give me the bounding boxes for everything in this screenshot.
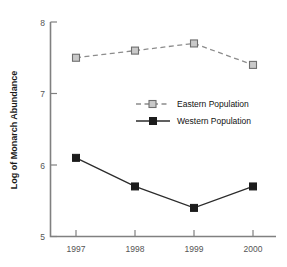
data-point: [250, 183, 257, 190]
legend-label-western: Western Population: [177, 116, 251, 126]
eastern-line: [76, 43, 253, 64]
data-point: [191, 40, 198, 47]
y-axis-ticks: 8 7 6 5: [40, 18, 57, 243]
eastern-markers: [73, 40, 257, 68]
western-line: [76, 158, 253, 208]
y-tick-label-7: 7: [40, 89, 45, 99]
y-tick-label-5: 5: [40, 232, 45, 242]
x-tick-label-1999: 1999: [185, 244, 204, 254]
x-axis-ticks: 1997 1998 1999 2000: [67, 230, 263, 254]
y-tick-label-6: 6: [40, 161, 45, 171]
legend-label-eastern: Eastern Population: [177, 99, 249, 109]
data-point: [132, 183, 139, 190]
data-point: [73, 154, 80, 161]
chart-canvas: Log of Monarch Abundance 8 7 6 5 1997 19…: [0, 0, 287, 267]
y-tick-label-8: 8: [40, 18, 45, 28]
x-tick-label-2000: 2000: [244, 244, 263, 254]
data-point: [191, 204, 198, 211]
axis-lines: [51, 22, 277, 237]
data-point: [132, 47, 139, 54]
x-tick-label-1998: 1998: [126, 244, 145, 254]
legend-marker-western: [150, 118, 157, 125]
legend-entry-eastern: Eastern Population: [136, 99, 249, 109]
chart-legend: Eastern Population Western Population: [136, 99, 251, 126]
series-western-population: [73, 154, 257, 211]
data-point: [73, 54, 80, 61]
series-eastern-population: [73, 40, 257, 68]
y-axis-title: Log of Monarch Abundance: [9, 71, 19, 190]
legend-entry-western: Western Population: [136, 116, 251, 126]
monarch-abundance-chart: Log of Monarch Abundance 8 7 6 5 1997 19…: [0, 0, 287, 267]
data-point: [250, 61, 257, 68]
x-tick-label-1997: 1997: [67, 244, 86, 254]
western-markers: [73, 154, 257, 211]
legend-marker-eastern: [149, 101, 156, 108]
